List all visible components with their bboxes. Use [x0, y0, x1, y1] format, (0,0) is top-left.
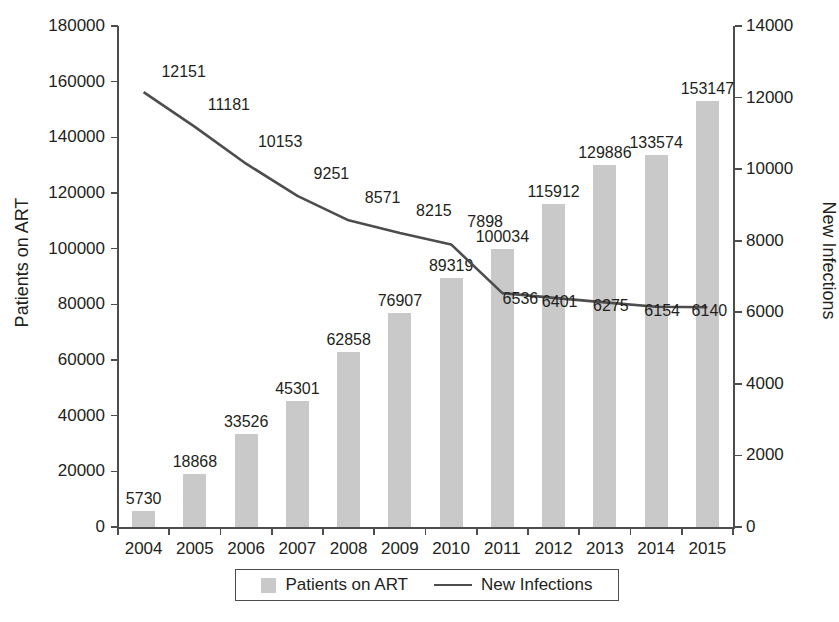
- line-value-label: 6140: [671, 302, 747, 320]
- line-value-label: 7898: [447, 213, 523, 231]
- line-value-label: 12151: [146, 63, 222, 81]
- line-value-label: 10153: [242, 133, 318, 151]
- line-value-label: 11181: [191, 96, 267, 114]
- line-value-label: 9251: [293, 165, 369, 183]
